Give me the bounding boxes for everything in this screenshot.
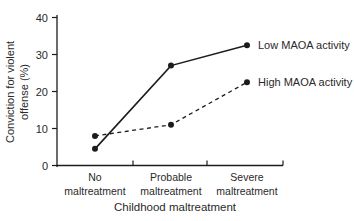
series-line-low-maoa-activity <box>95 45 247 149</box>
x-category-label: maltreatment <box>216 185 277 197</box>
series-label-high-maoa-activity: High MAOA activity <box>258 76 353 88</box>
y-tick-label: 0 <box>42 160 48 172</box>
x-category-label: maltreatment <box>140 185 201 197</box>
series-line-high-maoa-activity <box>95 82 247 136</box>
x-axis-title: Childhood maltreatment <box>114 201 237 213</box>
data-point-low-maoa-activity <box>244 42 250 48</box>
y-tick-label: 10 <box>36 123 48 135</box>
data-point-high-maoa-activity <box>244 79 250 85</box>
y-axis-title-line: offense (%) <box>18 64 30 120</box>
maoa-maltreatment-line-chart-figure: 010203040NomaltreatmentProbablemaltreatm… <box>0 0 354 221</box>
y-axis-title-line: Conviction for violent <box>4 41 16 143</box>
y-tick-label: 40 <box>36 12 48 24</box>
x-category-label: Probable <box>150 171 192 183</box>
series-label-low-maoa-activity: Low MAOA activity <box>258 39 350 51</box>
data-point-low-maoa-activity <box>92 146 98 152</box>
x-category-label: No <box>88 171 102 183</box>
y-tick-label: 30 <box>36 49 48 61</box>
y-tick-label: 20 <box>36 86 48 98</box>
x-category-label: maltreatment <box>64 185 125 197</box>
data-point-high-maoa-activity <box>92 133 98 139</box>
data-point-low-maoa-activity <box>168 63 174 69</box>
x-category-label: Severe <box>230 171 263 183</box>
plot-area: 010203040NomaltreatmentProbablemaltreatm… <box>0 0 354 221</box>
data-point-high-maoa-activity <box>168 122 174 128</box>
